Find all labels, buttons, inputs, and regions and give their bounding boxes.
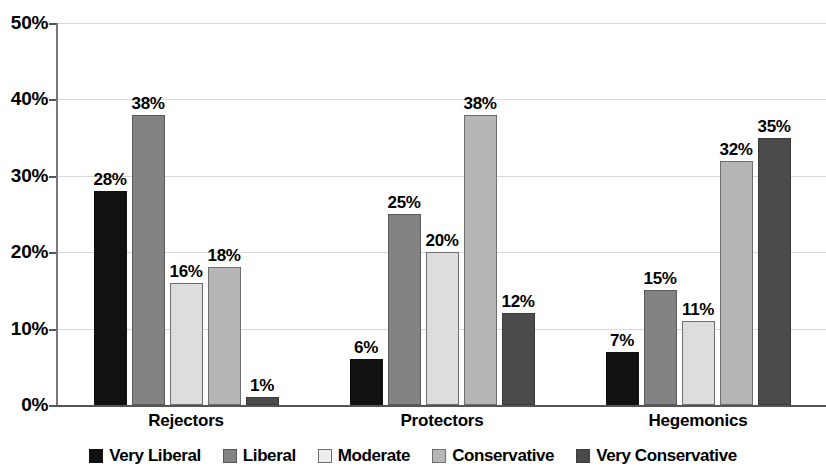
y-axis-tick-label: 0% (0, 394, 48, 416)
bar-value-label: 25% (388, 193, 421, 213)
legend-label: Conservative (452, 446, 554, 466)
y-axis: 0%10%20%30%40%50% (0, 0, 48, 472)
y-axis-tick-label: 10% (0, 318, 48, 340)
legend-item: Liberal (223, 446, 296, 466)
gridline (58, 99, 826, 100)
y-axis-tick-mark (49, 329, 56, 331)
bar: 35% (758, 138, 791, 405)
y-axis-tick-label: 40% (0, 88, 48, 110)
x-axis-category-label: Protectors (400, 411, 483, 431)
legend-swatch (576, 449, 590, 463)
bar: 38% (464, 115, 497, 405)
bar: 20% (426, 252, 459, 405)
bar-value-label: 16% (170, 262, 203, 282)
bar-value-label: 1% (250, 376, 274, 396)
legend-swatch (318, 449, 332, 463)
legend-label: Liberal (243, 446, 296, 466)
y-axis-tick-label: 20% (0, 241, 48, 263)
y-axis-tick-mark (49, 23, 56, 25)
y-axis-tick-mark (49, 99, 56, 101)
bar-value-label: 38% (132, 94, 165, 114)
bar-value-label: 38% (464, 94, 497, 114)
legend-swatch (432, 449, 446, 463)
bar: 12% (502, 313, 535, 405)
bar: 1% (246, 397, 279, 405)
bar: 7% (606, 352, 639, 405)
gridline (58, 23, 826, 24)
bar-value-label: 28% (94, 170, 127, 190)
bar: 18% (208, 267, 241, 405)
legend-item: Very Conservative (576, 446, 737, 466)
bar: 38% (132, 115, 165, 405)
bar-value-label: 15% (644, 269, 677, 289)
legend-item: Very Liberal (89, 446, 201, 466)
bar-value-label: 35% (758, 117, 791, 137)
x-axis-category-label: Hegemonics (648, 411, 747, 431)
legend-item: Moderate (318, 446, 410, 466)
grouped-bar-chart: 0%10%20%30%40%50% 28%38%16%18%1%6%25%20%… (0, 0, 826, 472)
legend-swatch (223, 449, 237, 463)
y-axis-tick-mark (49, 252, 56, 254)
y-axis-tick-label: 50% (0, 12, 48, 34)
bar: 11% (682, 321, 715, 405)
x-axis-line (56, 405, 826, 407)
bar-value-label: 20% (426, 231, 459, 251)
legend-label: Very Conservative (596, 446, 737, 466)
legend-label: Moderate (338, 446, 410, 466)
gridline (58, 176, 826, 177)
bar: 16% (170, 283, 203, 405)
y-axis-tick-mark (49, 405, 56, 407)
bar-value-label: 11% (682, 300, 714, 320)
legend-swatch (89, 449, 103, 463)
bar: 15% (644, 290, 677, 405)
bar-value-label: 6% (354, 338, 378, 358)
y-axis-tick-label: 30% (0, 165, 48, 187)
legend-label: Very Liberal (109, 446, 201, 466)
bar-value-label: 32% (720, 140, 753, 160)
bar-value-label: 7% (610, 331, 634, 351)
bar: 32% (720, 161, 753, 405)
x-axis-category-label: Rejectors (148, 411, 224, 431)
plot-area: 28%38%16%18%1%6%25%20%38%12%7%15%11%32%3… (58, 23, 826, 405)
bar: 6% (350, 359, 383, 405)
bar-value-label: 18% (208, 246, 241, 266)
bar: 28% (94, 191, 127, 405)
y-axis-tick-mark (49, 176, 56, 178)
legend-item: Conservative (432, 446, 554, 466)
bar-value-label: 12% (502, 292, 535, 312)
chart-legend: Very LiberalLiberalModerateConservativeV… (0, 446, 826, 466)
bar: 25% (388, 214, 421, 405)
